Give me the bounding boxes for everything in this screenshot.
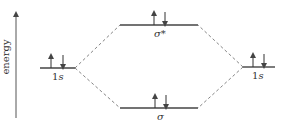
right-1s-label: 1s xyxy=(252,70,264,81)
left-1s-level: 1s xyxy=(40,55,75,82)
energy-axis-label: energy xyxy=(0,39,11,74)
sigma-level: σ xyxy=(120,95,198,122)
right-1s-level: 1s xyxy=(243,54,275,81)
dashed-left-to-sigma xyxy=(75,68,120,108)
dashed-right-to-sigma-star xyxy=(198,25,243,67)
dashed-left-to-sigma-star xyxy=(75,25,120,68)
molecular-orbital-diagram: energy 1s σ* σ 1s xyxy=(0,0,287,126)
energy-axis: energy xyxy=(0,14,16,118)
sigma-star-label: σ* xyxy=(154,28,166,39)
left-1s-label: 1s xyxy=(52,71,64,82)
dashed-right-to-sigma xyxy=(198,67,243,108)
right-1s-label-letter: s xyxy=(258,70,263,81)
sigma-star-level: σ* xyxy=(120,12,198,39)
sigma-label: σ xyxy=(157,111,165,122)
left-1s-label-letter: s xyxy=(58,71,63,82)
